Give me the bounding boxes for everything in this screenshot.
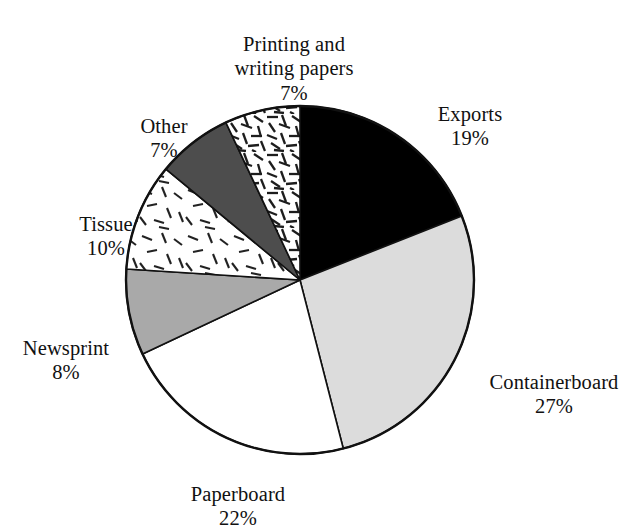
slice-label-text: Other bbox=[140, 115, 187, 137]
slice-label-percent: 19% bbox=[392, 126, 548, 150]
slice-label-percent: 7% bbox=[112, 138, 216, 162]
slice-label-text: Newsprint bbox=[23, 337, 109, 359]
slice-label-text: Paperboard bbox=[191, 483, 285, 505]
slice-label-text: Containerboard bbox=[490, 371, 619, 393]
slice-label-exports: Exports 19% bbox=[392, 78, 548, 175]
slice-label-percent: 7% bbox=[196, 81, 392, 105]
slice-label-text: Tissue bbox=[79, 213, 132, 235]
slice-label-percent: 8% bbox=[0, 360, 132, 384]
slice-label-printing-and-writing-papers: Printing and writing papers 7% bbox=[196, 8, 392, 129]
slice-label-percent: 22% bbox=[148, 506, 328, 529]
slice-label-containerboard: Containerboard 27% bbox=[470, 346, 638, 443]
slice-label-paperboard: Paperboard 22% bbox=[148, 458, 328, 529]
slice-label-text: Exports bbox=[438, 103, 502, 125]
slice-label-percent: 10% bbox=[50, 236, 162, 260]
slice-label-tissue: Tissue 10% bbox=[50, 188, 162, 285]
slice-label-text: Printing and writing papers bbox=[234, 33, 353, 79]
slice-label-newsprint: Newsprint 8% bbox=[0, 312, 132, 409]
slice-label-percent: 27% bbox=[470, 394, 638, 418]
slice-label-other: Other 7% bbox=[112, 90, 216, 187]
